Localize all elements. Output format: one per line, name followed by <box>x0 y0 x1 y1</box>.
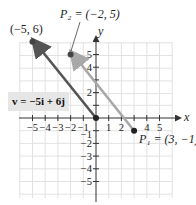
tip-label: (−5, 6) <box>10 22 43 36</box>
p1-label: P₁ = (3, −1) <box>138 132 196 146</box>
svg-text:−2: −2 <box>81 138 92 149</box>
p2-label: P₂ = (−2, 5) <box>59 7 120 21</box>
svg-text:−2: −2 <box>65 122 76 133</box>
svg-text:−4: −4 <box>40 122 52 133</box>
svg-text:2: 2 <box>87 87 92 98</box>
svg-text:2: 2 <box>119 122 124 133</box>
y-axis-label: y <box>97 24 104 38</box>
svg-text:−4: −4 <box>81 163 93 174</box>
segment-vector-p1-p2 <box>72 53 134 131</box>
vector-label: v = −5i + 6j <box>8 92 69 111</box>
x-axis-label: x <box>183 110 190 124</box>
point-p1 <box>131 128 137 134</box>
svg-text:−3: −3 <box>81 151 92 162</box>
svg-text:−3: −3 <box>52 122 63 133</box>
svg-text:1: 1 <box>106 122 111 133</box>
svg-text:5: 5 <box>87 49 92 60</box>
point-origin <box>93 115 99 121</box>
svg-text:−5: −5 <box>27 122 38 133</box>
point-p2 <box>68 52 74 58</box>
p2-leader <box>71 22 80 51</box>
point-tip <box>30 39 36 45</box>
svg-text:−5: −5 <box>81 176 92 187</box>
vector-diagram: −5 −4 −3 −2 −1 1 2 4 5 5 4 2 −1 −2 −3 −4… <box>0 0 196 205</box>
